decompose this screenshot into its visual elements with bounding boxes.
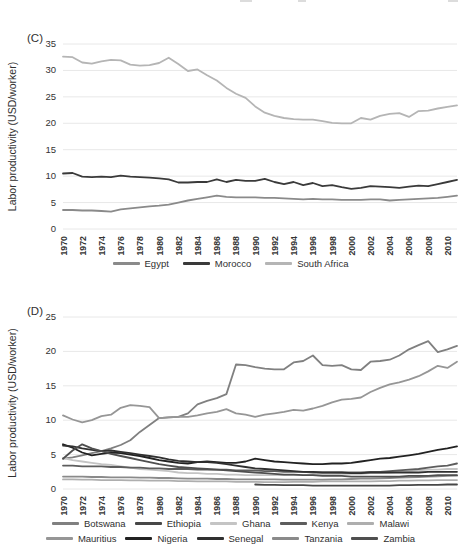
legend-item-botswana: Botswana — [52, 519, 126, 529]
legend-item-ethiopia: Ethiopia — [135, 519, 201, 529]
x-tick-label: 1970 — [59, 236, 69, 256]
legend-chart-d: BotswanaEthiopiaGhanaKenyaMalawiMauritiu… — [0, 519, 461, 543]
x-tick-label: 2010 — [443, 236, 453, 256]
x-tick-label: 1990 — [251, 496, 261, 516]
legend-item-mauritius: Mauritius — [46, 534, 117, 544]
series-line-mauritius — [63, 362, 457, 423]
y-tick-label: 0 — [51, 483, 56, 494]
x-tick-label: 1976 — [116, 236, 126, 256]
legend-label-botswana: Botswana — [84, 519, 126, 529]
legend-chart-c: EgyptMoroccoSouth Africa — [0, 259, 461, 269]
legend-row: EgyptMoroccoSouth Africa — [0, 259, 461, 269]
legend-label-mauritius: Mauritius — [78, 534, 117, 544]
x-tick-label: 1978 — [135, 496, 145, 516]
x-tick-label: 1980 — [155, 236, 165, 256]
legend-swatch-kenya — [280, 522, 307, 525]
x-tick-label: 1984 — [193, 236, 203, 256]
legend-swatch-tanzania — [272, 537, 299, 540]
legend-label-south-africa: South Africa — [297, 259, 348, 269]
legend-label-tanzania: Tanzania — [304, 534, 342, 544]
legend-swatch-morocco — [183, 262, 210, 265]
x-tick-label: 1990 — [251, 236, 261, 256]
legend-row: BotswanaEthiopiaGhanaKenyaMalawi — [0, 519, 461, 529]
y-tick-label: 20 — [45, 345, 56, 356]
legend-swatch-mauritius — [46, 537, 73, 540]
x-tick-label: 2000 — [347, 236, 357, 256]
legend-swatch-senegal — [197, 537, 224, 540]
x-tick-label: 1982 — [174, 236, 184, 256]
y-tick-label: 10 — [45, 170, 56, 181]
y-tick-label: 5 — [51, 197, 56, 208]
legend-item-morocco: Morocco — [183, 259, 251, 269]
legend-item-malawi: Malawi — [347, 519, 409, 529]
legend-swatch-ethiopia — [135, 522, 162, 525]
x-tick-label: 1986 — [212, 236, 222, 256]
y-axis-label-c: Labor productivity (USD/worker) — [6, 62, 18, 211]
x-tick-label: 1984 — [193, 496, 203, 516]
legend-label-ethiopia: Ethiopia — [167, 519, 201, 529]
x-tick-label: 2008 — [424, 236, 434, 256]
series-line-morocco — [63, 173, 457, 189]
legend-label-morocco: Morocco — [215, 259, 251, 269]
x-tick-label: 2006 — [404, 496, 414, 516]
x-tick-label: 1996 — [308, 496, 318, 516]
x-tick-label: 2010 — [443, 496, 453, 516]
y-tick-label: 15 — [45, 144, 56, 155]
legend-label-zambia: Zambia — [383, 534, 415, 544]
y-tick-label: 35 — [45, 38, 56, 49]
series-line-ethiopia — [255, 485, 457, 486]
x-tick-label: 1998 — [328, 496, 338, 516]
y-tick-label: 5 — [51, 449, 56, 460]
legend-swatch-south-africa — [265, 262, 292, 265]
x-tick-label: 1998 — [328, 236, 338, 256]
legend-swatch-malawi — [347, 522, 374, 525]
y-tick-label: 20 — [45, 117, 56, 128]
series-line-botswana — [63, 341, 457, 459]
legend-row: MauritiusNigeriaSenegalTanzaniaZambia — [0, 534, 461, 544]
legend-swatch-egypt — [113, 262, 140, 265]
legend-swatch-botswana — [52, 522, 79, 525]
legend-item-zambia: Zambia — [351, 534, 415, 544]
x-tick-label: 1994 — [289, 236, 299, 256]
legend-label-nigeria: Nigeria — [157, 534, 187, 544]
x-tick-label: 1992 — [270, 236, 280, 256]
legend-label-ghana: Ghana — [242, 519, 271, 529]
legend-item-nigeria: Nigeria — [125, 534, 187, 544]
x-tick-label: 1980 — [155, 496, 165, 516]
line-charts-svg: 0510152025303519701972197419761978198019… — [0, 0, 461, 550]
x-tick-label: 2000 — [347, 496, 357, 516]
x-tick-label: 1994 — [289, 496, 299, 516]
x-tick-label: 2006 — [404, 236, 414, 256]
x-tick-label: 1982 — [174, 496, 184, 516]
x-tick-label: 1970 — [59, 496, 69, 516]
y-axis-label-d: Labor productivity (USD/worker) — [6, 328, 18, 477]
x-tick-label: 1974 — [97, 496, 107, 516]
legend-item-tanzania: Tanzania — [272, 534, 342, 544]
x-tick-label: 2004 — [385, 496, 395, 516]
legend-label-malawi: Malawi — [379, 519, 409, 529]
series-line-egypt — [63, 196, 457, 212]
legend-item-south-africa: South Africa — [265, 259, 348, 269]
x-tick-label: 2002 — [366, 236, 376, 256]
legend-item-ghana: Ghana — [210, 519, 271, 529]
y-tick-label: 15 — [45, 380, 56, 391]
x-tick-label: 1988 — [231, 496, 241, 516]
y-tick-label: 25 — [45, 311, 56, 322]
y-tick-label: 30 — [45, 64, 56, 75]
legend-item-kenya: Kenya — [280, 519, 339, 529]
x-tick-label: 1988 — [231, 236, 241, 256]
y-tick-label: 10 — [45, 414, 56, 425]
y-tick-label: 25 — [45, 91, 56, 102]
legend-label-senegal: Senegal — [229, 534, 264, 544]
legend-swatch-nigeria — [125, 537, 152, 540]
panel-label-d: (D) — [27, 305, 43, 317]
x-tick-label: 1996 — [308, 236, 318, 256]
x-tick-label: 2002 — [366, 496, 376, 516]
x-tick-label: 1972 — [78, 496, 88, 516]
legend-item-senegal: Senegal — [197, 534, 264, 544]
x-tick-label: 2008 — [424, 496, 434, 516]
x-tick-label: 1978 — [135, 236, 145, 256]
legend-swatch-ghana — [210, 522, 237, 525]
x-tick-label: 1976 — [116, 496, 126, 516]
series-line-south-africa — [63, 57, 457, 124]
